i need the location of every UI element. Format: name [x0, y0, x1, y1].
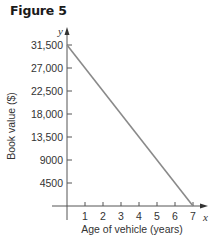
y-tick-label: 18,000 [31, 108, 63, 120]
x-axis-variable: x [202, 211, 208, 223]
y-tick-label: 4500 [40, 177, 64, 189]
y-axis-arrow-icon [65, 27, 70, 35]
x-tick-label: 1 [82, 210, 88, 222]
line-chart: y x 31,50027,00022,50018,00013,500900045… [0, 0, 211, 245]
y-tick-label: 13,500 [31, 131, 63, 143]
y-tick-label: 31,500 [31, 39, 63, 51]
x-tick-label: 6 [172, 210, 178, 222]
y-tick-label: 22,500 [31, 85, 63, 97]
y-axis-title: Book value ($) [5, 92, 17, 160]
x-axis-arrow-icon [200, 204, 208, 209]
x-tick-label: 2 [100, 210, 106, 222]
y-tick-label: 27,000 [31, 62, 63, 74]
x-ticks: 1234567 [82, 202, 196, 222]
x-tick-label: 4 [136, 210, 142, 222]
x-tick-label: 7 [190, 210, 196, 222]
x-tick-label: 3 [118, 210, 124, 222]
y-ticks: 31,50027,00022,50018,00013,50090004500 [31, 39, 72, 189]
y-axis-variable: y [57, 25, 63, 37]
x-axis-title: Age of vehicle (years) [81, 223, 183, 235]
y-tick-label: 9000 [40, 154, 64, 166]
book-value-line [67, 45, 193, 206]
x-tick-label: 5 [154, 210, 160, 222]
